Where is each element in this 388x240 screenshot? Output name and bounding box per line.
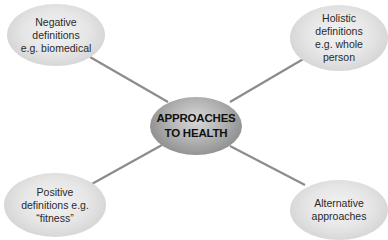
node-center-approaches-to-health: APPROACHES TO HEALTH bbox=[150, 97, 242, 155]
node-text-line: e.g. whole bbox=[315, 38, 363, 51]
node-holistic-definitions: Holistic definitions e.g. whole person bbox=[290, 5, 388, 71]
node-alternative-approaches: Alternative approaches bbox=[290, 180, 388, 240]
node-positive-definitions: Positive definitions e.g. “fitness” bbox=[4, 173, 106, 237]
center-text-line: TO HEALTH bbox=[165, 126, 228, 141]
node-text-line: Negative bbox=[35, 16, 76, 29]
node-text-line: “fitness” bbox=[36, 212, 73, 225]
connector-negative bbox=[90, 57, 168, 102]
node-text-line: definitions bbox=[32, 29, 79, 42]
connector-alternative bbox=[230, 146, 305, 185]
connector-holistic bbox=[230, 58, 305, 102]
node-text-line: e.g. biomedical bbox=[21, 42, 92, 55]
node-text-line: Holistic bbox=[322, 12, 356, 25]
node-text-line: definitions e.g. bbox=[21, 199, 89, 212]
node-text-line: Alternative bbox=[314, 197, 364, 210]
center-text-line: APPROACHES bbox=[156, 111, 235, 126]
node-text-line: Positive bbox=[37, 186, 74, 199]
node-text-line: approaches bbox=[312, 210, 367, 223]
node-negative-definitions: Negative definitions e.g. biomedical bbox=[7, 4, 105, 66]
node-text-line: person bbox=[323, 51, 355, 64]
node-text-line: definitions bbox=[315, 25, 362, 38]
connector-positive bbox=[90, 145, 162, 185]
